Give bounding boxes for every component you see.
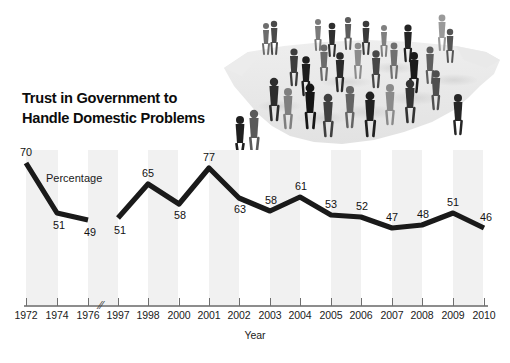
x-axis-tick (148, 298, 149, 306)
point-label: 47 (377, 211, 407, 223)
point-label: 49 (75, 226, 105, 238)
x-axis-tick (88, 298, 89, 306)
x-axis-tick (361, 298, 362, 306)
point-label: 53 (316, 198, 346, 210)
x-axis-label: Year (0, 329, 510, 341)
x-axis-tick (484, 298, 485, 306)
x-axis-tick (57, 298, 58, 306)
point-label: 58 (256, 194, 286, 206)
chart-title-line-2: Handle Domestic Problems (22, 108, 252, 128)
point-label: 77 (194, 151, 224, 163)
x-axis-tick (392, 298, 393, 306)
point-label: 70 (11, 146, 41, 158)
chart-figure: 70 51 49 51 65 58 77 63 58 61 53 52 47 4… (0, 0, 510, 363)
point-label: 51 (44, 219, 74, 231)
x-axis-tick (422, 298, 423, 306)
point-label: 46 (471, 211, 501, 223)
point-label: 51 (105, 224, 135, 236)
x-axis-line (24, 305, 488, 307)
x-axis-tick (331, 298, 332, 306)
point-label: 52 (347, 200, 377, 212)
x-axis-tick (270, 298, 271, 306)
chart-title: Trust in Government to Handle Domestic P… (22, 88, 252, 128)
x-axis-tick-label: 2010 (464, 309, 504, 321)
point-label: 58 (165, 209, 195, 221)
x-axis-tick (118, 298, 119, 306)
x-axis-tick (26, 298, 27, 306)
point-label: 63 (225, 203, 255, 215)
point-label: 61 (286, 180, 316, 192)
x-axis-tick (453, 298, 454, 306)
point-label: 65 (133, 167, 163, 179)
series-annotation-percentage: Percentage (46, 172, 102, 184)
x-axis-tick (179, 298, 180, 306)
point-label: 51 (438, 196, 468, 208)
x-axis-tick (300, 298, 301, 306)
x-axis-tick (239, 298, 240, 306)
chart-title-line-1: Trust in Government to (22, 88, 252, 108)
point-label: 48 (408, 208, 438, 220)
x-axis-tick (209, 298, 210, 306)
